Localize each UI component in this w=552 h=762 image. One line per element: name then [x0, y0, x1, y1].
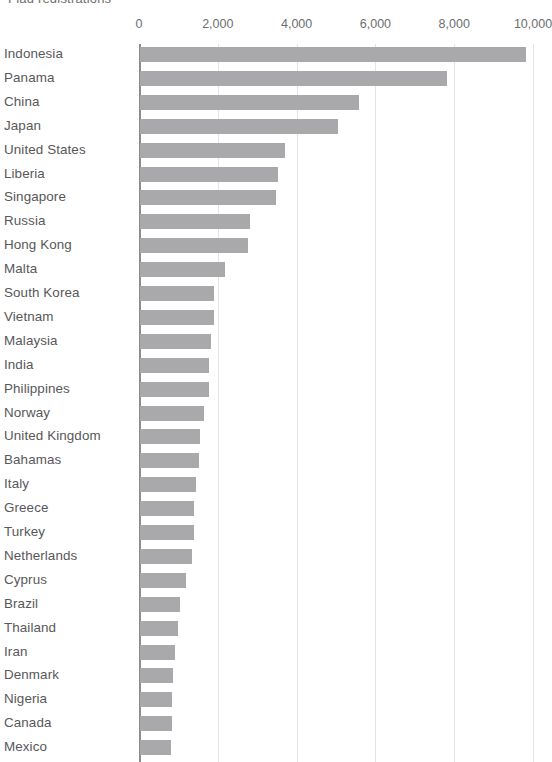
bar-vietnam [140, 310, 214, 325]
bar-netherlands [140, 549, 192, 564]
x-tick-label-4000: 4,000 [281, 17, 312, 31]
category-label-india: India [4, 356, 132, 374]
bar-row: Turkey [0, 522, 550, 546]
bar-row: Mexico [0, 737, 550, 761]
bar-norway [140, 406, 204, 421]
bar-malta [140, 262, 225, 277]
bar-row: Panama [0, 68, 550, 92]
bar-malaysia [140, 334, 211, 349]
bar-row: Malta [0, 259, 550, 283]
category-label-nigeria: Nigeria [4, 690, 132, 708]
bar-row: Bahamas [0, 450, 550, 474]
bar-row: Thailand [0, 618, 550, 642]
bar-cyprus [140, 573, 186, 588]
x-tick-label-8000: 8,000 [439, 17, 470, 31]
bar-row: Norway [0, 403, 550, 427]
bar-row: Denmark [0, 665, 550, 689]
bar-row: South Korea [0, 283, 550, 307]
bar-hong-kong [140, 238, 248, 253]
category-label-canada: Canada [4, 714, 132, 732]
bar-japan [140, 119, 338, 134]
category-label-greece: Greece [4, 499, 132, 517]
bar-row: Greece [0, 498, 550, 522]
category-label-bahamas: Bahamas [4, 451, 132, 469]
bar-row: Italy [0, 474, 550, 498]
bar-bahamas [140, 453, 199, 468]
bar-rows: IndonesiaPanamaChinaJapanUnited StatesLi… [0, 44, 550, 762]
category-label-china: China [4, 93, 132, 111]
category-label-united-states: United States [4, 141, 132, 159]
bar-italy [140, 477, 196, 492]
x-tick-label-0: 0 [136, 17, 143, 31]
bar-indonesia [140, 47, 526, 62]
category-label-philippines: Philippines [4, 380, 132, 398]
bar-row: Indonesia [0, 44, 550, 68]
bar-china [140, 95, 359, 110]
bar-row: Singapore [0, 187, 550, 211]
bar-row: United Kingdom [0, 426, 550, 450]
category-label-hong-kong: Hong Kong [4, 236, 132, 254]
category-label-iran: Iran [4, 643, 132, 661]
bar-row: Netherlands [0, 546, 550, 570]
bar-liberia [140, 167, 278, 182]
bar-row: Nigeria [0, 689, 550, 713]
bar-iran [140, 645, 175, 660]
bar-row: Russia [0, 211, 550, 235]
bar-row: Liberia [0, 164, 550, 188]
category-label-thailand: Thailand [4, 619, 132, 637]
x-tick-label-10000: 10,000 [514, 17, 552, 31]
bar-greece [140, 501, 194, 516]
category-label-italy: Italy [4, 475, 132, 493]
bar-row: Iran [0, 642, 550, 666]
category-label-russia: Russia [4, 212, 132, 230]
category-label-malaysia: Malaysia [4, 332, 132, 350]
category-label-netherlands: Netherlands [4, 547, 132, 565]
bar-nigeria [140, 692, 172, 707]
bar-row: Brazil [0, 594, 550, 618]
category-label-malta: Malta [4, 260, 132, 278]
category-label-indonesia: Indonesia [4, 45, 132, 63]
category-label-brazil: Brazil [4, 595, 132, 613]
bar-united-kingdom [140, 429, 200, 444]
bar-singapore [140, 190, 276, 205]
category-label-cyprus: Cyprus [4, 571, 132, 589]
bar-row: India [0, 355, 550, 379]
bar-row: Cyprus [0, 570, 550, 594]
category-label-norway: Norway [4, 404, 132, 422]
x-axis-tick-labels: 02,0004,0006,0008,00010,000 [0, 17, 550, 37]
category-label-panama: Panama [4, 69, 132, 87]
bar-row: Philippines [0, 379, 550, 403]
bar-row: Hong Kong [0, 235, 550, 259]
bar-row: Malaysia [0, 331, 550, 355]
bar-united-states [140, 143, 285, 158]
bar-row: China [0, 92, 550, 116]
bar-row: Canada [0, 713, 550, 737]
bar-philippines [140, 382, 209, 397]
category-label-singapore: Singapore [4, 188, 132, 206]
category-label-denmark: Denmark [4, 666, 132, 684]
x-tick-label-2000: 2,000 [202, 17, 233, 31]
category-label-turkey: Turkey [4, 523, 132, 541]
bar-row: Japan [0, 116, 550, 140]
x-tick-label-6000: 6,000 [360, 17, 391, 31]
bar-row: Vietnam [0, 307, 550, 331]
bar-brazil [140, 597, 180, 612]
category-label-vietnam: Vietnam [4, 308, 132, 326]
category-label-japan: Japan [4, 117, 132, 135]
bar-india [140, 358, 209, 373]
category-label-united-kingdom: United Kingdom [4, 427, 132, 445]
bar-row: United States [0, 140, 550, 164]
bar-panama [140, 71, 447, 86]
category-label-liberia: Liberia [4, 165, 132, 183]
bar-south-korea [140, 286, 214, 301]
bar-denmark [140, 668, 173, 683]
bar-turkey [140, 525, 194, 540]
bar-mexico [140, 740, 171, 755]
bar-thailand [140, 621, 178, 636]
bar-russia [140, 214, 250, 229]
chart-title: Flag registrations [8, 0, 111, 3]
bar-canada [140, 716, 172, 731]
category-label-south-korea: South Korea [4, 284, 132, 302]
category-label-mexico: Mexico [4, 738, 132, 756]
